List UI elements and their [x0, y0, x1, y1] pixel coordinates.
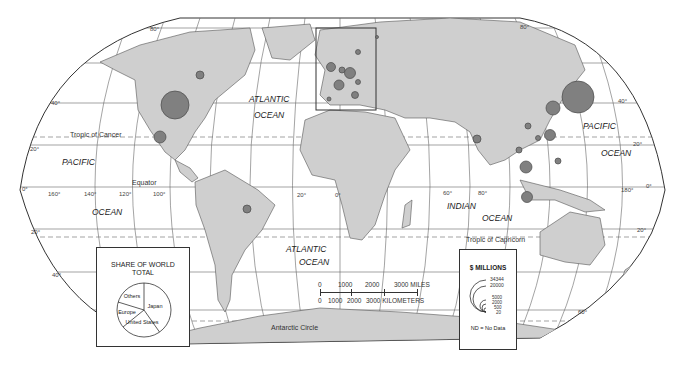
line-label-2: Tropic of Capricorn	[466, 236, 525, 243]
legend-circle-scale	[464, 276, 514, 326]
degree-label-16: 60°	[578, 309, 587, 315]
data-circle-france	[334, 80, 344, 90]
ocean-label-4: PACIFIC	[583, 122, 616, 131]
ocean-label-1: OCEAN	[254, 111, 284, 120]
degree-label-18: 0°	[335, 192, 341, 198]
degree-label-6: 0°	[22, 186, 28, 192]
scale-bar: 0 1000 2000 3000 MILES 0 1000 2000 3000 …	[318, 282, 428, 308]
degree-label-11: 100°	[153, 191, 165, 197]
degree-label-1: 80°	[520, 24, 529, 30]
degree-label-8: 160°	[48, 191, 60, 197]
pie-label-europe: Europe	[118, 309, 136, 315]
degree-label-3: 40°	[618, 98, 627, 104]
scale-km-1000: 1000	[328, 298, 342, 305]
data-circle-canada	[196, 71, 204, 79]
degree-label-19: 60°	[443, 190, 452, 196]
degree-label-4: 20°	[30, 146, 39, 152]
data-circle-mexico	[154, 131, 166, 143]
ocean-label-7: OCEAN	[299, 258, 329, 267]
scale-tick	[320, 289, 321, 296]
data-circle-germany	[345, 68, 356, 79]
share-pie-chart: Japan United States Europe Others	[115, 281, 173, 339]
data-circle-netherlands-belgium	[339, 67, 345, 73]
scale-miles-1000: 1000	[338, 282, 352, 289]
line-label-3: Antarctic Circle	[271, 324, 318, 331]
ocean-label-5: OCEAN	[601, 149, 631, 158]
data-circle-philippines	[555, 158, 561, 164]
data-circle-taiwan	[545, 130, 556, 141]
scale-tick	[351, 289, 352, 296]
scale-km-3000: 3000 KILOMETERS	[366, 298, 424, 305]
degree-label-15: 40°	[52, 272, 61, 278]
degree-label-13: 20°	[31, 229, 40, 235]
pie-label-united-states: United States	[125, 319, 158, 325]
degree-label-17: 20°	[297, 192, 306, 198]
data-circle-indonesia	[522, 192, 533, 203]
pie-title-line2: TOTAL	[97, 269, 189, 277]
degree-label-0: 80°	[150, 26, 159, 32]
data-circle-japan	[562, 81, 594, 113]
scale-miles-2000: 2000	[365, 282, 379, 289]
legend-title: $ MILLIONS	[460, 264, 516, 272]
scale-line	[320, 292, 418, 293]
ocean-label-2: PACIFIC	[62, 158, 95, 167]
ocean-label-3: OCEAN	[92, 208, 122, 217]
degree-label-20: 80°	[478, 190, 487, 196]
data-circle-south-korea	[546, 101, 560, 115]
scale-tick	[417, 289, 418, 296]
pie-title-line1: SHARE OF WORLD	[97, 261, 189, 269]
legend-value-20000: 20000	[490, 283, 504, 288]
ocean-label-9: OCEAN	[482, 214, 512, 223]
scale-miles-3000: 3000 MILES	[394, 282, 430, 289]
data-circle-united-states	[161, 91, 189, 119]
degree-label-2: 40°	[51, 100, 60, 106]
scale-km-2000: 2000	[347, 298, 361, 305]
data-circle-austria-switzerland	[356, 80, 361, 85]
degree-label-10: 120°	[119, 191, 131, 197]
ocean-label-0: ATLANTIC	[249, 95, 289, 104]
data-circle-india	[473, 135, 481, 143]
data-circle-sweden	[356, 50, 361, 55]
data-circle-united-kingdom	[327, 63, 336, 72]
scale-tick	[384, 289, 385, 296]
ocean-label-6: ATLANTIC	[286, 245, 326, 254]
degree-label-9: 140°	[84, 191, 96, 197]
degree-label-14: 20°	[637, 227, 646, 233]
degree-label-5: 20°	[633, 141, 642, 147]
legend-value-20: 20	[496, 311, 501, 316]
scale-km-0: 0	[318, 298, 322, 305]
data-circle-malaysia-singapore	[520, 161, 532, 173]
data-circle-spain	[327, 97, 331, 101]
data-circle-brazil	[243, 205, 251, 213]
millions-legend-box: $ MILLIONS 34344 20000 5000 2000 500 20 …	[459, 249, 517, 350]
data-circle-china	[525, 123, 531, 129]
data-circle-finland	[376, 36, 379, 39]
share-of-world-box: SHARE OF WORLD TOTAL Japan United States…	[96, 247, 190, 347]
data-circle-thailand	[516, 147, 522, 153]
scale-miles-0: 0	[318, 282, 322, 289]
data-circle-hong-kong	[536, 136, 541, 141]
line-label-1: Equator	[132, 179, 157, 186]
data-circle-italy	[352, 92, 359, 99]
pie-label-others: Others	[124, 293, 141, 299]
degree-label-7: 0°	[646, 183, 652, 189]
pie-label-japan: Japan	[148, 303, 163, 309]
line-label-0: Tropic of Cancer	[70, 131, 121, 138]
degree-label-12: 180°	[621, 187, 633, 193]
legend-no-data-note: ND = No Data	[460, 324, 516, 332]
ocean-label-8: INDIAN	[447, 202, 476, 211]
